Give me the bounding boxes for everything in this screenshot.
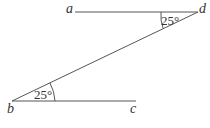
point-label-a: a: [66, 1, 73, 16]
point-label-b: b: [7, 101, 14, 116]
point-label-d: d: [199, 1, 207, 16]
angle-label-b: 25°: [34, 87, 52, 102]
geometry-diagram: a d b c 25° 25°: [0, 0, 210, 128]
point-label-c: c: [130, 101, 137, 116]
angle-label-d: 25°: [161, 13, 179, 28]
